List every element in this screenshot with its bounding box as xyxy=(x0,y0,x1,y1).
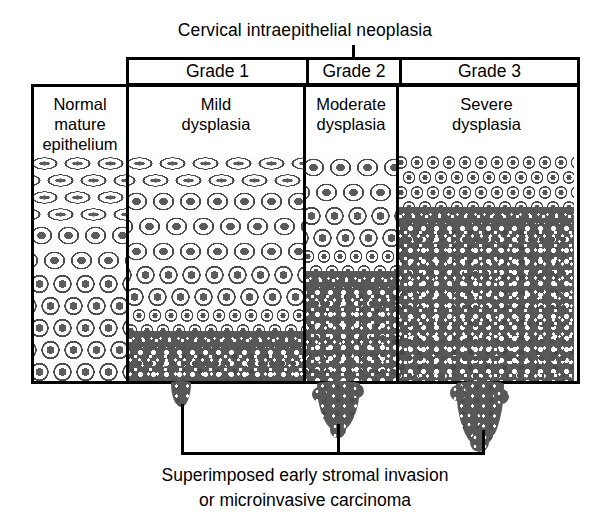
cell-layer-intermediate xyxy=(306,155,396,180)
cell-layer-parabasal xyxy=(306,227,396,249)
column-label-line: Normal xyxy=(34,94,126,114)
bracket-arm-left xyxy=(181,404,184,455)
bottom-caption: Superimposed early stromal invasion or m… xyxy=(0,463,610,513)
cell-layer-intermediate xyxy=(129,189,303,214)
cell-layer-intermediate xyxy=(34,248,126,273)
column-label-mild-dysplasia: Mild dysplasia xyxy=(129,87,303,134)
column-label-line: dysplasia xyxy=(129,114,303,134)
cell-layer-intermediate xyxy=(129,239,303,264)
grade-header-label: Grade 2 xyxy=(322,61,385,82)
cell-layer-parabasal xyxy=(34,273,126,295)
column-mild-dysplasia: Mild dysplasia xyxy=(126,87,303,381)
cell-layer-parabasal xyxy=(34,295,126,317)
caption-line: Superimposed early stromal invasion xyxy=(0,463,610,488)
cell-layer-crowded xyxy=(399,170,574,185)
column-label-normal: Normal mature epithelium xyxy=(34,87,126,154)
cell-layer-parabasal xyxy=(306,205,396,227)
epithelium-diagram-box: Normal mature epithelium Mild dysplasia xyxy=(31,84,580,384)
invasion-blob xyxy=(350,384,364,398)
cell-layer-intermediate xyxy=(34,223,126,248)
tissue-moderate-dysplasia xyxy=(306,155,396,381)
column-normal-epithelium: Normal mature epithelium xyxy=(34,87,126,381)
column-label-line: Moderate xyxy=(306,94,396,114)
cell-layer-superficial xyxy=(34,189,126,206)
diagram-title: Cervical intraepithelial neoplasia xyxy=(0,20,610,41)
cell-layer-crowded xyxy=(399,155,574,170)
grade-header-label: Grade 1 xyxy=(186,61,249,82)
cell-layer-parabasal xyxy=(129,286,303,308)
tissue-severe-dysplasia xyxy=(399,155,574,381)
cell-layer-superficial xyxy=(129,172,303,189)
cell-layer-superficial xyxy=(34,155,126,172)
column-label-line: Severe xyxy=(399,94,574,114)
cell-layer-basal xyxy=(34,339,126,361)
bracket-base-line xyxy=(181,452,485,455)
column-label-line: dysplasia xyxy=(399,114,574,134)
dysplastic-zone xyxy=(399,223,574,381)
column-label-line: Mild xyxy=(129,94,303,114)
invasion-blob xyxy=(450,385,466,401)
grade-header-label: Grade 3 xyxy=(458,61,521,82)
cell-layer-intermediate xyxy=(129,214,303,239)
column-label-line: dysplasia xyxy=(306,114,396,134)
cell-layer-superficial xyxy=(34,206,126,223)
cell-layer-crowded xyxy=(399,185,574,200)
cell-layer-parabasal xyxy=(34,317,126,339)
grade-header-cell-grade-2: Grade 2 xyxy=(306,60,399,83)
cell-layer-intermediate xyxy=(306,180,396,205)
bracket-arm-middle xyxy=(337,424,340,455)
stromal-invasion-grade-3 xyxy=(456,381,504,447)
cell-layer-basal xyxy=(34,361,126,381)
invasion-blob xyxy=(470,433,489,452)
dysplastic-zone xyxy=(306,287,396,381)
column-label-severe-dysplasia: Severe dysplasia xyxy=(399,87,574,134)
column-label-moderate-dysplasia: Moderate dysplasia xyxy=(306,87,396,134)
invasion-blob xyxy=(464,411,481,428)
cell-layer-superficial xyxy=(34,172,126,189)
cell-layer-parabasal xyxy=(129,264,303,286)
grade-header-cell-grade-1: Grade 1 xyxy=(129,60,306,83)
grade-header-row: Grade 1 Grade 2 Grade 3 xyxy=(126,57,580,86)
column-label-line: mature xyxy=(34,114,126,134)
cell-layer-superficial xyxy=(129,155,303,172)
column-label-line: epithelium xyxy=(34,134,126,154)
grade-header-cell-grade-3: Grade 3 xyxy=(399,60,577,83)
column-severe-dysplasia: Severe dysplasia xyxy=(396,87,574,381)
column-moderate-dysplasia: Moderate dysplasia xyxy=(303,87,396,381)
cell-layer-crowded xyxy=(306,249,396,264)
invasion-blob xyxy=(494,389,509,404)
dysplastic-zone xyxy=(129,347,303,381)
tissue-mild-dysplasia xyxy=(129,155,303,381)
caption-line: or microinvasive carcinoma xyxy=(0,488,610,513)
cell-layer-crowded xyxy=(129,308,303,323)
tissue-normal xyxy=(34,155,126,381)
invasion-blob xyxy=(312,387,327,402)
